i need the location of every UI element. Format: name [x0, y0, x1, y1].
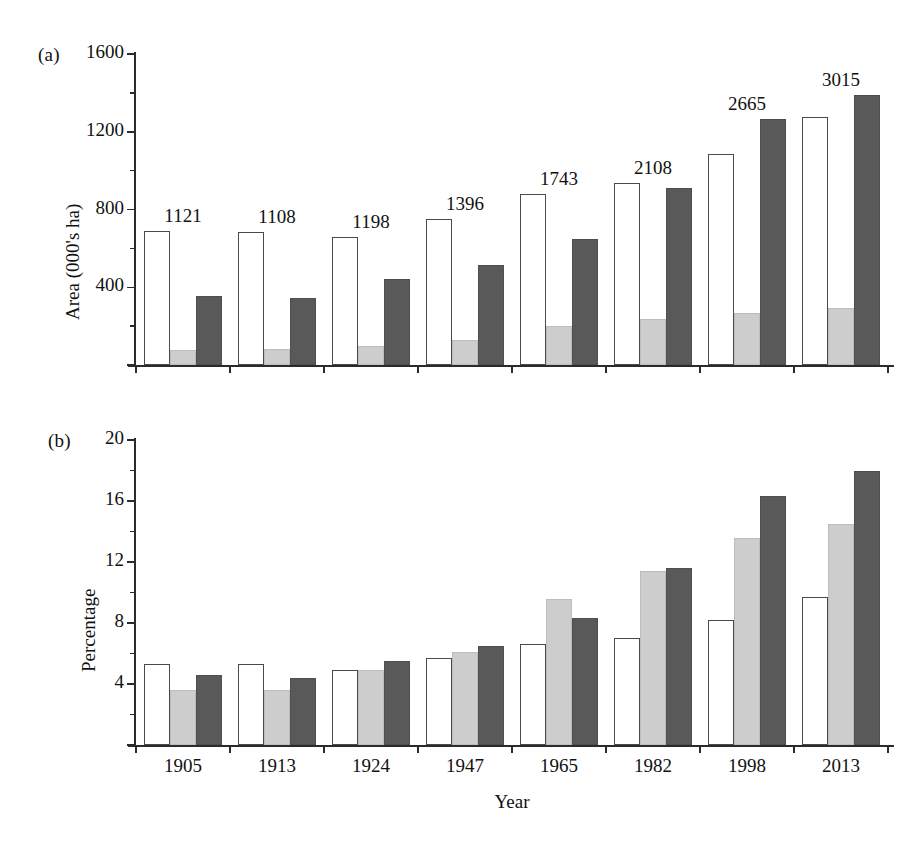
y-tick-major	[127, 209, 136, 211]
bar-a-1924-s2	[358, 346, 384, 365]
x-group-tick	[511, 365, 513, 373]
bar-a-1965-s3	[572, 239, 598, 365]
y-tick-minor	[130, 592, 136, 594]
bar-b-1965-s2	[546, 599, 572, 745]
y-tick-minor	[130, 325, 136, 327]
bar-total-label: 1198	[326, 211, 416, 233]
bar-a-1913-s2	[264, 349, 290, 365]
bar-a-1947-s1	[426, 219, 452, 365]
bar-a-2013-s1	[802, 117, 828, 365]
y-tick-minor	[130, 714, 136, 716]
y-tick-label: 8	[34, 610, 124, 632]
y-tick-label: 1600	[34, 41, 124, 63]
bar-a-1905-s1	[144, 231, 170, 365]
y-tick-label: 400	[34, 274, 124, 296]
bar-total-label: 2108	[608, 157, 698, 179]
bar-total-label: 3015	[796, 69, 886, 91]
bar-a-1982-s1	[614, 183, 640, 365]
x-group-tick	[605, 745, 607, 753]
bar-b-1905-s1	[144, 664, 170, 745]
x-group-tick	[699, 365, 701, 373]
bar-b-2013-s1	[802, 597, 828, 745]
y-tick-major	[127, 561, 136, 563]
x-group-tick	[417, 365, 419, 373]
x-group-tick	[323, 745, 325, 753]
bar-a-1947-s3	[478, 265, 504, 365]
bar-total-label: 1108	[232, 206, 322, 228]
bar-b-2013-s3	[854, 471, 880, 746]
x-group-tick	[793, 745, 795, 753]
bar-total-label: 1743	[514, 168, 604, 190]
x-tick-label-1982: 1982	[603, 755, 703, 777]
y-tick-minor	[130, 92, 136, 94]
bar-a-1965-s1	[520, 194, 546, 365]
bar-a-1913-s1	[238, 232, 264, 365]
y-tick-minor	[130, 531, 136, 533]
bar-b-1947-s3	[478, 646, 504, 745]
bar-a-1905-s3	[196, 296, 222, 365]
x-group-tick	[135, 365, 137, 373]
bar-total-label: 2665	[702, 93, 792, 115]
y-tick-label: 1200	[34, 119, 124, 141]
y-tick-major	[127, 53, 136, 55]
y-tick-major	[127, 439, 136, 441]
bar-b-1998-s2	[734, 538, 760, 745]
x-group-tick	[793, 365, 795, 373]
x-tick-label-1913: 1913	[227, 755, 327, 777]
bar-a-2013-s2	[828, 308, 854, 365]
y-tick-major	[127, 287, 136, 289]
bar-a-1998-s2	[734, 313, 760, 365]
bar-b-1905-s3	[196, 675, 222, 745]
bar-b-1924-s1	[332, 670, 358, 745]
y-tick-major	[127, 683, 136, 685]
x-tick-label-1947: 1947	[415, 755, 515, 777]
x-axis-label: Year	[472, 791, 552, 813]
bar-a-2013-s3	[854, 95, 880, 365]
bar-b-1913-s2	[264, 690, 290, 745]
y-tick-major	[127, 131, 136, 133]
bar-a-1965-s2	[546, 326, 572, 365]
y-tick-major	[127, 500, 136, 502]
y-tick-minor	[130, 470, 136, 472]
y-axis-label-panel-a: Area (000's ha)	[62, 204, 84, 320]
x-group-tick	[229, 745, 231, 753]
bar-total-label: 1121	[138, 205, 228, 227]
bar-a-1913-s3	[290, 298, 316, 365]
bar-a-1998-s1	[708, 154, 734, 365]
x-tick-label-1998: 1998	[697, 755, 797, 777]
x-group-tick	[511, 745, 513, 753]
bar-b-1913-s1	[238, 664, 264, 745]
bar-b-1913-s3	[290, 678, 316, 745]
bar-b-1998-s1	[708, 620, 734, 745]
bar-b-1965-s3	[572, 618, 598, 745]
x-tick-label-1905: 1905	[133, 755, 233, 777]
bar-a-1905-s2	[170, 350, 196, 365]
bar-a-1924-s3	[384, 279, 410, 365]
y-tick-label: 16	[34, 488, 124, 510]
x-group-tick	[229, 365, 231, 373]
x-group-tick	[323, 365, 325, 373]
y-tick-minor	[130, 248, 136, 250]
x-group-tick	[887, 365, 889, 373]
figure-root: (a)Area (000's ha)4008001200160011211108…	[0, 0, 901, 844]
y-tick-label: 20	[34, 427, 124, 449]
bar-a-1924-s1	[332, 237, 358, 365]
bar-b-1998-s3	[760, 496, 786, 745]
y-tick-minor	[130, 653, 136, 655]
x-group-tick	[699, 745, 701, 753]
bar-b-1982-s1	[614, 638, 640, 745]
bar-total-label: 1396	[420, 193, 510, 215]
y-tick-label: 4	[34, 671, 124, 693]
x-group-tick	[887, 745, 889, 753]
bar-b-2013-s2	[828, 524, 854, 745]
bar-b-1982-s3	[666, 568, 692, 745]
bar-a-1998-s3	[760, 119, 786, 365]
x-group-tick	[605, 365, 607, 373]
x-group-tick	[417, 745, 419, 753]
bar-b-1924-s2	[358, 670, 384, 745]
y-tick-minor	[130, 170, 136, 172]
bar-b-1965-s1	[520, 644, 546, 745]
bar-b-1982-s2	[640, 571, 666, 745]
bar-a-1947-s2	[452, 340, 478, 365]
bar-b-1905-s2	[170, 690, 196, 745]
